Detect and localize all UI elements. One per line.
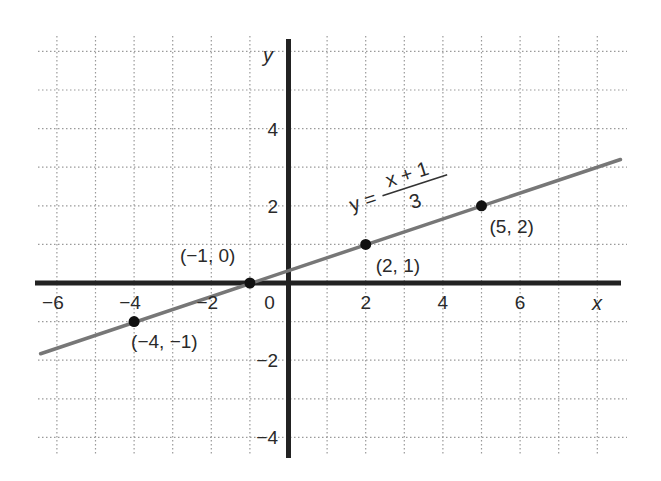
data-point-label: (2, 1)	[376, 255, 420, 276]
data-point-marker	[244, 278, 255, 289]
x-tick-label: −2	[196, 292, 218, 313]
tick-labels: xy−6−4−2024642−2−4	[42, 44, 603, 448]
data-point-label: (−1, 0)	[180, 245, 235, 266]
axes	[35, 39, 621, 458]
y-tick-label: −2	[256, 350, 278, 371]
data-point-marker	[129, 316, 140, 327]
data-points: (−4, −1)(−1, 0)(2, 1)(5, 2)	[129, 200, 534, 351]
equation-numerator: x + 1	[383, 157, 432, 191]
y-tick-label: 2	[267, 196, 278, 217]
x-tick-label: −6	[42, 292, 64, 313]
data-point-label: (5, 2)	[490, 216, 534, 237]
grid-lines	[38, 36, 627, 455]
equation-lhs: y =	[346, 186, 379, 215]
line-y-equals-x-plus-1-over-3	[41, 159, 621, 353]
graph-canvas: xy−6−4−2024642−2−4 (−4, −1)(−1, 0)(2, 1)…	[0, 0, 661, 481]
y-tick-label: 4	[267, 119, 278, 140]
x-tick-label: 4	[438, 292, 449, 313]
x-axis-label: x	[591, 292, 603, 314]
y-tick-label: −4	[256, 427, 278, 448]
x-tick-label: 2	[360, 292, 371, 313]
equation-denominator: 3	[407, 189, 424, 213]
data-point-label: (−4, −1)	[131, 331, 198, 352]
data-point-marker	[476, 200, 487, 211]
x-tick-label: 6	[515, 292, 526, 313]
y-axis-label: y	[261, 44, 274, 66]
data-point-marker	[360, 239, 371, 250]
series-line	[41, 159, 621, 353]
x-tick-label: 0	[264, 292, 275, 313]
x-tick-label: −4	[119, 292, 141, 313]
